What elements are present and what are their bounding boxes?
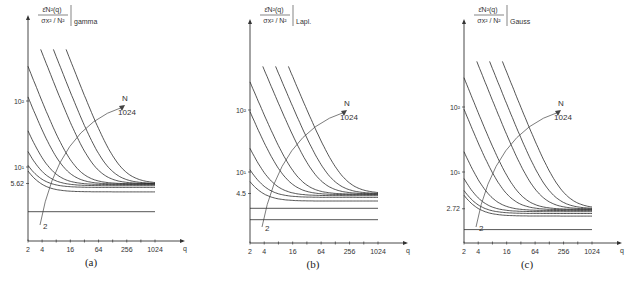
x-tick-label: 1024: [584, 248, 600, 255]
y-label-numerator: ε̄N²(q): [478, 6, 497, 14]
x-tick-label: 4: [40, 246, 44, 253]
x-tick-label: 64: [531, 248, 539, 255]
x-tick-label: 1024: [147, 246, 163, 253]
n-max-label: 1024: [554, 113, 572, 122]
x-tick-label: 1024: [370, 248, 386, 255]
n-label: N: [122, 94, 128, 103]
y-label-numerator: ε̄N²(q): [264, 6, 283, 14]
distribution-label: gamma: [74, 18, 97, 26]
x-tick-label: 256: [344, 248, 356, 255]
y-axis-arrow: [462, 19, 466, 24]
panel-label: (a): [85, 256, 98, 269]
series-line-N256: [477, 61, 592, 209]
x-tick-label: 4: [476, 248, 480, 255]
chart-panel-gauss: 2416642561024q10²10¹2.72ε̄N²(q)σx² / N²G…: [446, 5, 624, 271]
x-axis-arrow: [180, 239, 185, 243]
series-line-N128: [28, 66, 155, 184]
y-tick-label: 10¹: [236, 169, 247, 176]
panel-label: (c): [521, 258, 534, 271]
n-min-label: 2: [265, 224, 270, 233]
panel-label: (b): [307, 258, 320, 271]
y-tick-label: 5.62: [10, 180, 24, 187]
series-line-N128: [250, 82, 378, 194]
x-tick-label: 16: [503, 248, 511, 255]
x-tick-label: 4: [262, 248, 266, 255]
series-line-N256: [41, 49, 155, 183]
n-min-label: 2: [43, 222, 48, 231]
x-axis-arrow: [403, 241, 408, 245]
x-tick-label: 16: [289, 248, 297, 255]
distribution-label: Gauss: [510, 18, 531, 25]
n-max-label: 1024: [118, 108, 136, 117]
series-line-N512: [490, 61, 592, 208]
y-tick-label: 10¹: [14, 164, 25, 171]
y-label-denominator: σx² / N²: [477, 17, 501, 24]
x-tick-label: 2: [248, 248, 252, 255]
series-line-N16: [28, 152, 155, 186]
series-line-N128: [464, 78, 592, 210]
x-tick-label: 64: [95, 246, 103, 253]
x-tick-label: 64: [317, 248, 325, 255]
y-label-denominator: σx² / N²: [263, 17, 287, 24]
chart-panel-lapl: 2416642561024q10²10¹4.5ε̄N²(q)σx² / N²La…: [236, 5, 410, 271]
x-tick-label: 2: [26, 246, 30, 253]
n-max-label: 1024: [340, 113, 358, 122]
distribution-label: Lapl.: [296, 18, 311, 26]
x-axis-arrow: [617, 241, 622, 245]
y-tick-label: 10²: [236, 107, 247, 114]
x-axis-label: q: [406, 247, 410, 255]
n-label: N: [558, 99, 564, 108]
n-label: N: [344, 99, 350, 108]
y-axis-arrow: [248, 19, 252, 24]
y-label-numerator: ε̄N²(q): [42, 6, 61, 14]
y-tick-label: 2.72: [446, 205, 460, 212]
series-line-N32: [28, 131, 155, 185]
chart-panel-gamma: 2416642561024q10²10¹5.62ε̄N²(q)σx² / N²g…: [10, 5, 187, 269]
series-line-N1024: [288, 66, 378, 192]
series-line-N1024: [502, 61, 592, 207]
x-tick-label: 2: [462, 248, 466, 255]
series-line-N512: [53, 49, 155, 183]
series-line-N64: [250, 112, 378, 195]
x-tick-label: 16: [66, 246, 74, 253]
y-tick-label: 10²: [450, 104, 461, 111]
x-axis-label: q: [183, 245, 187, 253]
y-axis-arrow: [26, 15, 30, 20]
y-tick-label: 4.5: [236, 190, 246, 197]
x-tick-label: 256: [558, 248, 570, 255]
x-tick-label: 256: [121, 246, 133, 253]
series-line-N1024: [66, 49, 155, 182]
series-line-N256: [263, 66, 378, 193]
n-min-label: 2: [479, 224, 484, 233]
series-line-N512: [276, 66, 378, 193]
x-axis-label: q: [620, 247, 624, 255]
y-tick-label: 10²: [14, 98, 25, 105]
figure-canvas: 2416642561024q10²10¹5.62ε̄N²(q)σx² / N²g…: [0, 0, 630, 281]
n-direction-arrow: [262, 112, 345, 227]
y-tick-label: 10¹: [450, 169, 461, 176]
y-label-denominator: σx² / N²: [41, 17, 65, 24]
